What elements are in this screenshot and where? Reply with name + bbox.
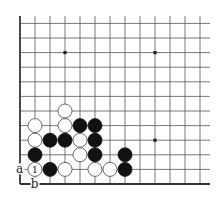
black-stone bbox=[73, 119, 87, 133]
black-stone-circle bbox=[58, 133, 72, 147]
white-stone-circle bbox=[103, 162, 117, 176]
black-stone-circle bbox=[118, 148, 132, 162]
white-stone bbox=[73, 148, 87, 162]
star-point bbox=[153, 51, 156, 54]
black-stone bbox=[118, 148, 132, 162]
black-stone-circle bbox=[88, 133, 102, 147]
white-stone-circle bbox=[58, 162, 72, 176]
go-board-diagram: 1 ab bbox=[0, 0, 224, 201]
point-label-a: a bbox=[16, 162, 23, 176]
white-stone bbox=[58, 119, 72, 133]
white-stone bbox=[58, 162, 72, 176]
white-stone-circle bbox=[28, 133, 42, 147]
white-stone-circle bbox=[28, 119, 42, 133]
white-stone bbox=[73, 133, 87, 147]
black-stone bbox=[28, 148, 42, 162]
black-stone bbox=[43, 133, 57, 147]
black-stone-circle bbox=[88, 148, 102, 162]
black-stone bbox=[88, 148, 102, 162]
black-stone bbox=[118, 162, 132, 176]
white-stone bbox=[58, 104, 72, 118]
board-grid bbox=[20, 16, 210, 184]
point-label-b: b bbox=[31, 177, 39, 191]
white-stone-circle bbox=[58, 119, 72, 133]
stone-move-number: 1 bbox=[32, 164, 38, 175]
black-stone-circle bbox=[43, 133, 57, 147]
black-stone-circle bbox=[88, 119, 102, 133]
white-stone bbox=[88, 162, 102, 176]
white-stone: 1 bbox=[28, 162, 42, 176]
black-stone-circle bbox=[73, 119, 87, 133]
white-stone bbox=[28, 119, 42, 133]
white-stone bbox=[28, 133, 42, 147]
white-stone bbox=[103, 162, 117, 176]
black-stone-circle bbox=[118, 162, 132, 176]
black-stone bbox=[88, 133, 102, 147]
black-stone bbox=[43, 162, 57, 176]
black-stone-circle bbox=[43, 162, 57, 176]
black-stone bbox=[58, 133, 72, 147]
star-point bbox=[63, 51, 66, 54]
black-stone bbox=[88, 119, 102, 133]
white-stone-circle bbox=[88, 162, 102, 176]
star-point bbox=[153, 139, 156, 142]
black-stone-circle bbox=[28, 148, 42, 162]
white-stone-circle bbox=[58, 104, 72, 118]
white-stone-circle bbox=[73, 148, 87, 162]
white-stone-circle bbox=[73, 133, 87, 147]
